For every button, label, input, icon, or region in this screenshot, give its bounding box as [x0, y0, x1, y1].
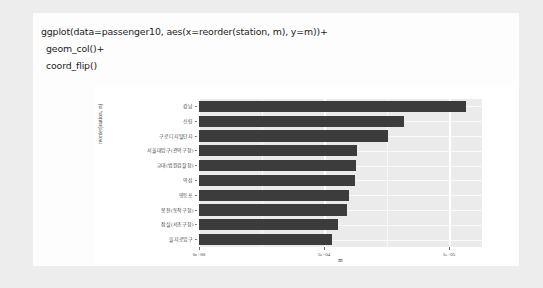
- bar: [199, 219, 338, 230]
- y-axis-tick-label: 신림: [183, 114, 193, 128]
- y-axis-tick-label: 잠실(서초구청): [161, 218, 193, 232]
- code-line-2: geom_col()+: [41, 40, 501, 57]
- y-axis-title-text: reorder(station, m): [97, 132, 103, 144]
- bar: [199, 145, 357, 156]
- notebook-cell-card: ggplot(data=passenger10, aes(x=reorder(s…: [33, 13, 519, 266]
- x-axis-title: m: [199, 257, 482, 263]
- y-axis-tick-label: 봉천(동작구청): [161, 203, 193, 217]
- y-axis-tick-label: 서울대입구(관악구청): [147, 144, 193, 158]
- x-axis-tick-mark: [324, 247, 325, 250]
- x-axis-tick-mark: [449, 247, 450, 250]
- y-axis-tick-label: 구로디지털단지: [159, 129, 193, 143]
- y-axis-tick-label: 영등포: [179, 188, 193, 202]
- y-axis-title: reorder(station, m): [97, 132, 103, 144]
- x-axis-tick-mark: [199, 247, 200, 250]
- bar: [199, 190, 349, 201]
- bar: [199, 160, 356, 171]
- gridline-major: [449, 99, 450, 247]
- bar: [199, 116, 404, 127]
- y-axis-tick-label: 역삼: [183, 173, 193, 187]
- code-line-1: ggplot(data=passenger10, aes(x=reorder(s…: [41, 23, 501, 40]
- code-line-3: coord_flip(): [41, 57, 501, 74]
- y-axis-tick-label: 을지로입구: [169, 232, 193, 246]
- bar: [199, 130, 388, 141]
- ggplot-output: reorder(station, m) 강남신림구로디지털단지서울대입구(관악구…: [95, 87, 515, 264]
- code-block[interactable]: ggplot(data=passenger10, aes(x=reorder(s…: [41, 23, 501, 74]
- y-axis-tick-label: 강남: [183, 99, 193, 113]
- plot-panel: [199, 99, 482, 247]
- bar: [199, 204, 347, 215]
- bar: [199, 101, 466, 112]
- screenshot-root: ggplot(data=passenger10, aes(x=reorder(s…: [0, 0, 543, 288]
- bar: [199, 175, 355, 186]
- y-axis-tick-labels: 강남신림구로디지털단지서울대입구(관악구청)교대(법원검찰청)역삼영등포봉천(동…: [105, 99, 197, 247]
- y-axis-tick-label: 교대(법원검찰청): [156, 158, 193, 172]
- bar: [199, 234, 332, 245]
